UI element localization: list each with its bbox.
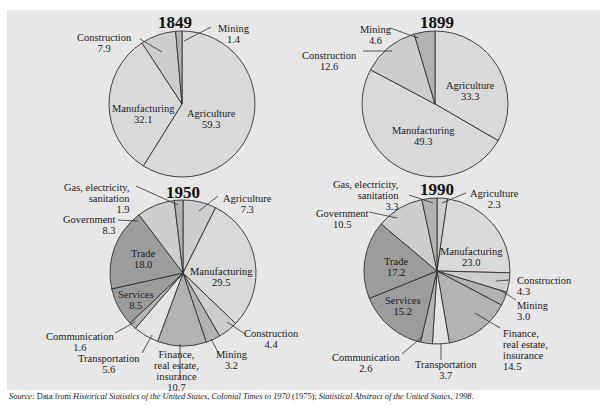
label-1990-services: Services15.2 xyxy=(385,295,421,317)
label-1990-finance: Finance,real estate,insurance14.5 xyxy=(503,328,548,372)
source-text: Data from xyxy=(35,392,73,401)
label-1990-government: Government10.5 xyxy=(316,208,369,230)
label-1950-agriculture: Agriculture7.3 xyxy=(223,193,271,215)
label-1950-trade: Trade18.0 xyxy=(131,248,155,270)
source-year: (1975); xyxy=(290,392,319,401)
source-prefix: Source: xyxy=(9,392,35,401)
source-title-1: Historical Statistics of the United Stat… xyxy=(73,392,290,401)
label-1990-mining: Mining3.0 xyxy=(517,300,548,322)
title-1990: 1990 xyxy=(420,180,454,200)
label-1950-communication: Communication1.6 xyxy=(46,331,114,353)
source-note: Source: Data from Historical Statistics … xyxy=(9,392,474,401)
label-1899-construction: Construction12.6 xyxy=(302,50,356,72)
label-1990-manufacturing: Manufacturing23.0 xyxy=(440,246,502,268)
label-1950-construction: Construction4.4 xyxy=(244,328,298,350)
label-1849-manufacturing: Manufacturing32.1 xyxy=(112,103,174,125)
label-1950-manufacturing: Manufacturing29.5 xyxy=(190,266,252,288)
title-1899: 1899 xyxy=(420,13,454,33)
label-1899-manufacturing: Manufacturing49.3 xyxy=(392,125,454,147)
source-title-2: Statistical Abstract of the United State… xyxy=(319,392,474,401)
label-1849-agriculture: Agriculture59.3 xyxy=(187,108,235,130)
label-1990-trade: Trade17.2 xyxy=(384,256,408,278)
label-1950-transportation: Transportation5.6 xyxy=(78,353,139,375)
label-1899-mining: Mining4.6 xyxy=(360,24,391,46)
label-1990-agriculture: Agriculture2.3 xyxy=(470,188,518,210)
label-1950-mining: Mining3.2 xyxy=(216,349,247,371)
title-1950: 1950 xyxy=(166,183,200,203)
label-1950-finance: Finance,real estate,insurance10.7 xyxy=(154,349,199,393)
label-1849-mining: Mining1.4 xyxy=(218,23,249,45)
title-1849: 1849 xyxy=(158,13,192,33)
label-1990-communication: Communication2.6 xyxy=(332,352,400,374)
label-1990-transportation: Transportation3.7 xyxy=(415,359,476,381)
label-1849-construction: Construction7.9 xyxy=(77,32,131,54)
label-1950-government: Government8.3 xyxy=(63,214,116,236)
label-1990-construction: Construction4.3 xyxy=(517,275,571,297)
label-1950-services: Services8.5 xyxy=(118,289,154,311)
label-1950-gas: Gas, electricity,sanitation1.9 xyxy=(64,182,130,215)
pie-1899 xyxy=(362,31,508,177)
label-1899-agriculture: Agriculture33.3 xyxy=(446,80,494,102)
